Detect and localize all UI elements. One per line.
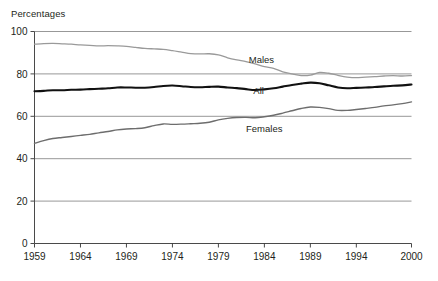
y-tick-label: 100 [11,26,28,37]
x-tick-label: 1989 [299,251,322,262]
x-tick-label: 1984 [253,251,276,262]
x-tick-label: 2000 [400,251,423,262]
x-axis-ticks [35,244,412,248]
series-line-males [35,43,412,77]
series-label-males: Males [249,54,275,65]
x-tick-label: 1994 [345,251,368,262]
data-series-group [35,43,412,143]
series-line-all [35,83,412,92]
y-tick-label: 80 [16,69,28,80]
x-tick-label: 1959 [23,251,46,262]
x-axis-tick-labels: 195919641969197419791984198919942000 [23,251,423,262]
chart-plot-area: 020406080100 195919641969197419791984198… [0,0,438,281]
y-axis-ticks [31,32,35,244]
y-tick-label: 0 [22,238,28,249]
x-tick-label: 1979 [207,251,230,262]
line-chart: Percentages 020406080100 195919641969197… [0,0,438,281]
x-tick-label: 1969 [115,251,138,262]
y-tick-label: 20 [16,196,28,207]
gridlines [35,32,412,202]
series-label-females: Females [246,123,283,134]
y-axis-tick-labels: 020406080100 [11,26,28,249]
y-tick-label: 60 [16,111,28,122]
x-tick-label: 1974 [161,251,184,262]
series-line-females [35,102,412,144]
x-tick-label: 1964 [69,251,92,262]
series-label-all: All [253,85,264,96]
y-tick-label: 40 [16,153,28,164]
